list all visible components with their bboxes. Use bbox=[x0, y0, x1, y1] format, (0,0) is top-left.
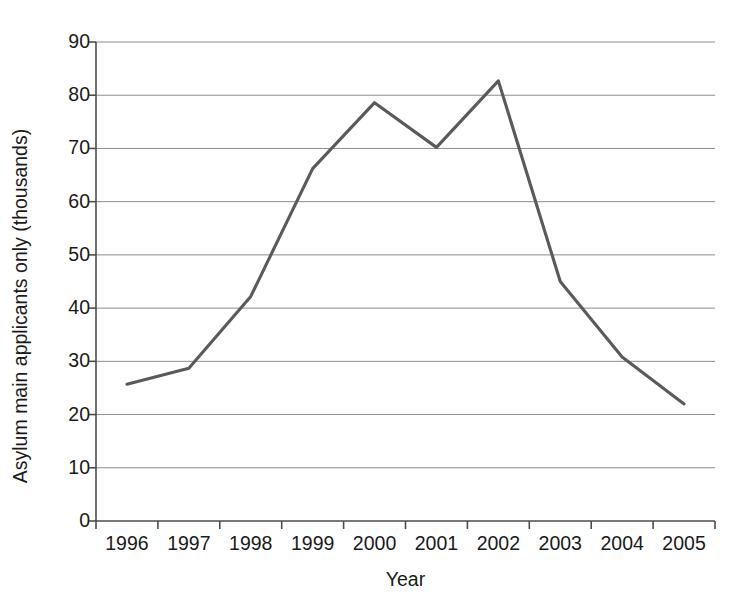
x-axis-title-text: Year bbox=[386, 568, 425, 590]
x-axis-tick-label: 1998 bbox=[229, 534, 272, 554]
x-axis-tick-label: 1997 bbox=[167, 534, 210, 554]
x-axis-tick-label: 1999 bbox=[291, 534, 334, 554]
data-series-line bbox=[127, 81, 684, 404]
x-axis-tick-label: 2005 bbox=[662, 534, 705, 554]
gridlines bbox=[96, 42, 715, 468]
x-axis-ticks bbox=[96, 521, 715, 529]
x-axis-tick-label: 2001 bbox=[415, 534, 458, 554]
x-axis-tick-label: 1996 bbox=[105, 534, 148, 554]
x-axis-tick-label: 2003 bbox=[539, 534, 582, 554]
x-axis-tick-label: 2002 bbox=[477, 534, 520, 554]
y-axis-ticks bbox=[89, 42, 96, 521]
x-axis-tick-label: 2004 bbox=[600, 534, 643, 554]
x-axis-tick-label: 2000 bbox=[353, 534, 396, 554]
line-chart: Asylum main applicants only (thousands) … bbox=[0, 0, 740, 612]
plot-area bbox=[0, 0, 740, 612]
x-axis-title: Year bbox=[96, 568, 715, 591]
